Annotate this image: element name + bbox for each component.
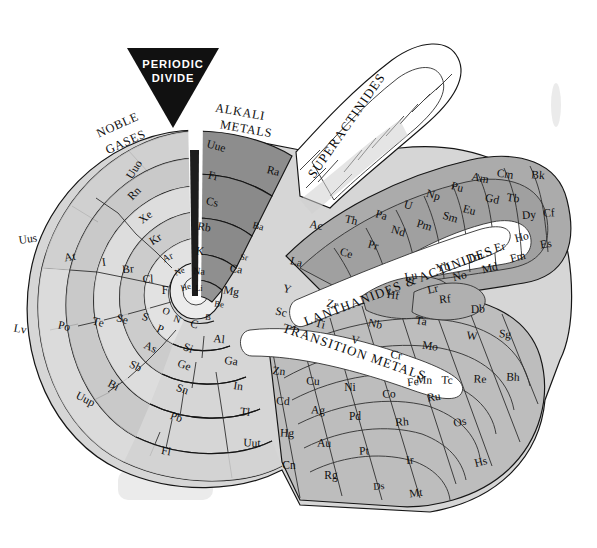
element-cell-rb[interactable]: Rb	[197, 220, 213, 234]
element-cell-cd[interactable]: Cd	[276, 394, 290, 407]
periodic-divide-label-line2: DIVIDE	[152, 72, 195, 84]
element-cell-ca[interactable]: Ca	[229, 262, 244, 276]
element-cell-f[interactable]: F	[162, 284, 168, 296]
element-cell-co[interactable]: Co	[382, 387, 396, 399]
element-cell-be[interactable]: Be	[214, 298, 225, 309]
element-cell-mt[interactable]: Mt	[408, 486, 424, 500]
element-cell-mo[interactable]: Mo	[421, 339, 439, 353]
element-cell-w[interactable]: W	[466, 329, 478, 342]
element-cell-na[interactable]: Na	[193, 265, 206, 277]
spiral-periodic-table-figure: PERIODIC DIVIDE	[0, 0, 597, 548]
periodic-spiral-svg: PERIODIC DIVIDE	[0, 0, 597, 548]
element-cell-tb[interactable]: Tb	[506, 191, 521, 205]
element-cell-rg[interactable]: Rg	[324, 469, 338, 482]
element-cell-ru[interactable]: Ru	[426, 390, 441, 404]
element-cell-cl[interactable]: Cl	[142, 272, 153, 284]
element-cell-in[interactable]: In	[233, 379, 244, 392]
element-cell-al[interactable]: Al	[213, 332, 226, 345]
element-cell-uut[interactable]: Uut	[243, 436, 261, 449]
element-cell-db[interactable]: Db	[471, 302, 486, 314]
element-cell-cu[interactable]: Cu	[306, 374, 320, 387]
element-cell-br[interactable]: Br	[122, 262, 135, 275]
element-cell-re[interactable]: Re	[473, 372, 486, 384]
element-cell-ga[interactable]: Ga	[224, 354, 239, 368]
element-cell-sg[interactable]: Sg	[498, 327, 512, 341]
element-cell-rf[interactable]: Rf	[439, 292, 452, 305]
element-cell-ds[interactable]: Ds	[373, 480, 385, 492]
element-cell-pd[interactable]: Pd	[349, 410, 361, 422]
element-cell-b[interactable]: B	[205, 312, 212, 322]
element-cell-ta[interactable]: Ta	[415, 314, 428, 327]
element-cell-ir[interactable]: Ir	[405, 453, 414, 466]
element-cell-rh[interactable]: Rh	[395, 415, 409, 428]
element-cell-lv[interactable]: Lv	[13, 322, 28, 336]
element-cell-bh[interactable]: Bh	[506, 370, 520, 382]
element-cell-cf[interactable]: Cf	[543, 206, 555, 219]
element-cell-au[interactable]: Au	[317, 436, 332, 448]
element-cell-li[interactable]: Li	[195, 283, 204, 293]
element-cell-bk[interactable]: Bk	[531, 168, 545, 181]
element-cell-pt[interactable]: Pt	[359, 444, 370, 456]
element-cell-hg[interactable]: Hg	[280, 426, 295, 439]
periodic-divide-label-line1: PERIODIC	[142, 58, 203, 70]
element-cell-cn[interactable]: Cn	[282, 459, 296, 471]
element-cell-fl[interactable]: Fl	[160, 444, 172, 457]
element-cell-ag[interactable]: Ag	[311, 403, 326, 417]
element-cell-tc[interactable]: Tc	[441, 373, 453, 385]
element-cell-cm[interactable]: Cm	[496, 167, 514, 181]
element-cell-ni[interactable]: Ni	[344, 381, 356, 393]
element-cell-tl[interactable]: Tl	[239, 405, 250, 418]
element-cell-dy[interactable]: Dy	[521, 208, 536, 222]
element-cell-zn[interactable]: Zn	[272, 364, 286, 377]
